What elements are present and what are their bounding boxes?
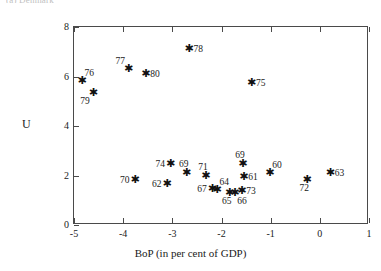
plot-area: 86420 -5-4-3-2-101 ✱76✱79✱77✱80✱78✱75✱70… — [73, 26, 368, 224]
x-tick-mark — [320, 218, 321, 223]
asterisk-marker-icon: ✱ — [124, 64, 132, 74]
data-point-label: 74 — [155, 160, 165, 170]
asterisk-marker-icon: ✱ — [247, 78, 255, 88]
x-tick-mark-top — [123, 27, 124, 32]
data-point-label: 77 — [116, 57, 126, 67]
x-tick-label: -3 — [160, 229, 184, 239]
x-tick-label: 0 — [308, 229, 332, 239]
x-tick-mark-top — [222, 27, 223, 32]
data-point-label: 69 — [179, 160, 189, 170]
data-point-label: 70 — [120, 176, 130, 186]
asterisk-marker-icon: ✱ — [201, 171, 209, 181]
x-tick-mark-top — [320, 27, 321, 32]
data-point-label: 61 — [248, 173, 258, 183]
data-point-label: 62 — [152, 180, 162, 190]
y-axis-title: U — [22, 118, 31, 130]
y-tick-label: 8 — [49, 22, 69, 32]
x-tick-label: -5 — [62, 229, 86, 239]
x-tick-mark — [222, 218, 223, 223]
x-tick-label: -1 — [259, 229, 283, 239]
asterisk-marker-icon: ✱ — [239, 172, 247, 182]
y-tick-label: 6 — [49, 72, 69, 82]
asterisk-marker-icon: ✱ — [185, 44, 193, 54]
y-tick-label: 4 — [49, 121, 69, 131]
data-point-label: 69 — [235, 151, 245, 161]
x-tick-mark — [172, 218, 173, 223]
y-tick-mark — [74, 176, 79, 177]
data-point-label: 71 — [198, 163, 208, 173]
asterisk-marker-icon: ✱ — [326, 168, 334, 178]
data-point-label: 79 — [80, 97, 90, 107]
data-point-label: 78 — [194, 45, 204, 55]
y-tick-mark — [74, 126, 79, 127]
data-point-label: 75 — [256, 79, 266, 89]
data-point-label: 76 — [84, 69, 94, 79]
x-tick-mark — [369, 218, 370, 223]
data-point-label: 60 — [272, 161, 282, 171]
data-point-label: 66 — [237, 197, 247, 207]
data-point-label: 67 — [197, 185, 207, 195]
asterisk-marker-icon: ✱ — [162, 179, 170, 189]
x-tick-mark — [123, 218, 124, 223]
y-tick-label: 2 — [49, 171, 69, 181]
asterisk-marker-icon: ✱ — [166, 159, 174, 169]
figure-caption: (a) Denmark — [6, 0, 54, 3]
data-point-label: 72 — [300, 184, 310, 194]
x-tick-mark-top — [271, 27, 272, 32]
x-tick-mark-top — [172, 27, 173, 32]
x-tick-label: 1 — [357, 229, 381, 239]
x-tick-label: -2 — [210, 229, 234, 239]
data-point-label: 80 — [150, 70, 160, 80]
x-tick-mark-top — [74, 27, 75, 32]
asterisk-marker-icon: ✱ — [141, 69, 149, 79]
data-point-label: 73 — [246, 187, 256, 197]
asterisk-marker-icon: ✱ — [130, 175, 138, 185]
asterisk-marker-icon: ✱ — [237, 186, 245, 196]
x-tick-mark — [74, 218, 75, 223]
y-tick-mark — [74, 225, 79, 226]
data-point-label: 63 — [335, 169, 345, 179]
asterisk-marker-icon: ✱ — [182, 168, 190, 178]
x-axis-title: BoP (in per cent of GDP) — [0, 248, 381, 259]
x-tick-label: -4 — [111, 229, 135, 239]
x-tick-mark — [271, 218, 272, 223]
chart-screenshot: (a) Denmark U 86420 -5-4-3-2-101 ✱76✱79✱… — [0, 0, 381, 271]
x-tick-mark-top — [369, 27, 370, 32]
asterisk-marker-icon: ✱ — [238, 159, 246, 169]
